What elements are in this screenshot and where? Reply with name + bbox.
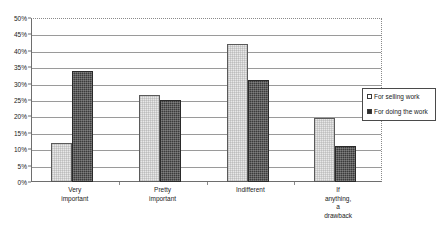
y-tick-label: 20% [14, 113, 27, 120]
y-tick-label: 10% [14, 146, 27, 153]
x-tick-label-line: Indifferent [214, 186, 286, 195]
x-tick-label-line: Very [39, 186, 111, 195]
bar-selling-pretty-important [139, 95, 160, 182]
bar-group-indifferent [207, 18, 295, 182]
bar-doing-indifferent [248, 80, 269, 182]
legend-label-doing-work: For doing the work [374, 108, 428, 116]
x-tick-label-pretty-important: Pretty important [127, 186, 199, 203]
bar-selling-drawback [314, 118, 335, 182]
legend-label-selling-work: For selling work [374, 93, 420, 101]
x-tick-label-very-important: Very important [39, 186, 111, 203]
bar-doing-pretty-important [160, 100, 181, 182]
y-tick-label: 5% [18, 162, 27, 169]
x-tick-label-indifferent: Indifferent [214, 186, 286, 195]
y-tick-label: 40% [14, 47, 27, 54]
bar-doing-very-important [72, 71, 93, 183]
x-tick-label-line: a [302, 203, 374, 212]
bar-doing-drawback [335, 146, 356, 182]
x-tick-label-line: Pretty [127, 186, 199, 195]
x-tick-label-line: anything, [302, 195, 374, 204]
x-tick-label-drawback: If anything, a drawback [302, 186, 374, 220]
x-minor-tick [119, 182, 120, 185]
y-tick-label: 30% [14, 80, 27, 87]
bar-selling-very-important [51, 143, 72, 182]
y-tick-label: 15% [14, 129, 27, 136]
bar-group-very-important [31, 18, 119, 182]
x-tick-label-line: If [302, 186, 374, 195]
legend-swatch-light-icon [367, 94, 372, 99]
bar-group-pretty-important [119, 18, 207, 182]
x-tick-label-line: important [39, 195, 111, 204]
x-tick-label-line: drawback [302, 212, 374, 221]
x-tick-label-line: important [127, 195, 199, 204]
legend-entry-doing-work: For doing the work [367, 108, 432, 116]
y-tick-label: 0% [18, 179, 27, 186]
bar-selling-indifferent [227, 44, 248, 182]
y-tick-label: 45% [14, 31, 27, 38]
y-tick-label: 35% [14, 64, 27, 71]
y-tick-label: 50% [14, 15, 27, 22]
legend-entry-selling-work: For selling work [367, 93, 432, 101]
bars-layer [31, 18, 382, 182]
bar-chart: 50% 45% 40% 35% 30% 25% 20% 15% 10% 5% 0… [0, 0, 439, 237]
legend-swatch-dark-icon [367, 109, 372, 114]
y-tick-label: 25% [14, 97, 27, 104]
y-axis: 50% 45% 40% 35% 30% 25% 20% 15% 10% 5% 0… [0, 0, 29, 237]
chart-legend: For selling work For doing the work [362, 88, 436, 121]
x-minor-tick [207, 182, 208, 185]
x-minor-tick [294, 182, 295, 185]
